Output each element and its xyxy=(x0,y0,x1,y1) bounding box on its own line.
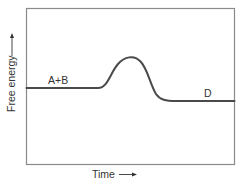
energy-diagram: A+B D Free energy Time xyxy=(0,0,244,183)
reactant-label: A+B xyxy=(48,74,68,86)
x-axis-title: Time xyxy=(92,168,115,180)
y-axis-title: Free energy xyxy=(5,55,17,112)
y-axis-arrow-icon xyxy=(10,33,14,56)
x-axis-arrow-icon xyxy=(119,173,137,177)
product-label: D xyxy=(204,87,212,99)
